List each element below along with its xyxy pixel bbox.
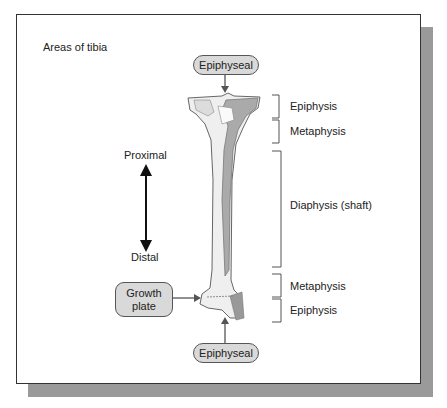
figure-title: Areas of tibia: [43, 41, 107, 53]
region-label-diaphysis: Diaphysis (shaft): [290, 199, 372, 211]
top-arrow-head-icon: [221, 86, 229, 93]
region-label-epiphysis-distal: Epiphysis: [290, 304, 337, 316]
growth-arrow-head-icon: [194, 294, 201, 302]
epiphyseal-bottom-callout: Epiphyseal: [193, 343, 259, 363]
bottom-arrow-head-icon: [221, 317, 229, 324]
region-label-metaphysis-distal: Metaphysis: [290, 280, 346, 292]
distal-label: Distal: [131, 251, 159, 263]
arrow-up-icon: [140, 164, 152, 176]
growth-plate-callout: Growth plate: [115, 282, 173, 317]
epiphyseal-top-callout: Epiphyseal: [193, 55, 259, 75]
proximal-label: Proximal: [124, 149, 167, 161]
tibia-bone: [188, 93, 260, 320]
region-brackets: [272, 95, 281, 322]
region-label-metaphysis-proximal: Metaphysis: [290, 125, 346, 137]
region-label-epiphysis-proximal: Epiphysis: [290, 100, 337, 112]
